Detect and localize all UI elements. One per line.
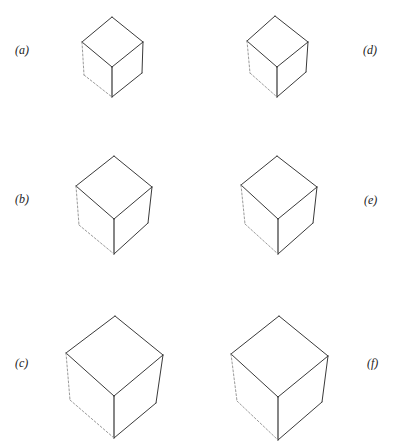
cube-c <box>66 316 163 438</box>
cube-e <box>241 156 317 254</box>
panel-label-f: (f) <box>367 357 378 369</box>
cube-f <box>231 316 328 440</box>
panel-label-b: (b) <box>15 193 29 205</box>
panel-label-e: (e) <box>364 194 377 206</box>
cube-d <box>247 16 308 97</box>
cube-a <box>82 17 143 97</box>
panel-label-a: (a) <box>15 44 29 56</box>
cube-b <box>76 156 152 254</box>
cube-figure <box>0 0 395 447</box>
panel-label-d: (d) <box>363 44 377 56</box>
panel-label-c: (c) <box>15 357 28 369</box>
